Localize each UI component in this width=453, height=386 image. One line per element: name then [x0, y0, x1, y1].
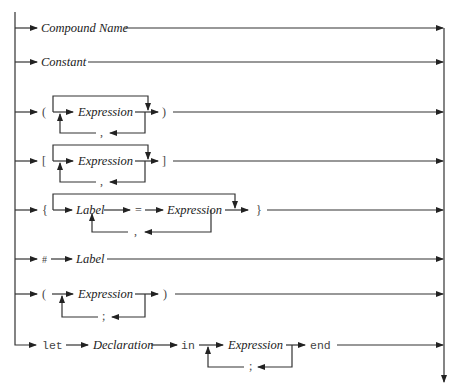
compound-name-label: Compound Name: [41, 21, 129, 35]
keyword-end: end: [310, 339, 331, 352]
row-list: [ Expression , ]: [15, 145, 443, 188]
rparen: ): [162, 105, 166, 119]
row-selector: # Label: [15, 252, 443, 266]
comma-separator: ,: [100, 125, 103, 139]
lbrace: {: [42, 203, 48, 217]
expression-label: Expression: [77, 287, 133, 301]
equals: =: [135, 203, 142, 217]
expression-label: Expression: [227, 338, 283, 352]
lparen: (: [42, 105, 46, 119]
row-record: { Label = Expression , }: [15, 194, 443, 238]
semicolon-separator: ;: [102, 309, 105, 323]
row-let: let Declaration in Expression ; end: [42, 338, 443, 373]
lbracket: [: [42, 154, 46, 168]
expression-label: Expression: [166, 203, 222, 217]
row-constant: Constant: [15, 55, 443, 69]
keyword-let: let: [42, 339, 63, 352]
rbracket: ]: [162, 154, 166, 168]
expression-label: Expression: [77, 105, 133, 119]
label-label: Label: [75, 252, 105, 266]
constant-label: Constant: [41, 55, 87, 69]
hash: #: [42, 254, 47, 265]
syntax-diagram: Compound Name Constant ( Expression , ) …: [0, 0, 453, 386]
lparen: (: [42, 287, 46, 301]
label-label: Label: [75, 203, 105, 217]
keyword-in: in: [181, 339, 195, 352]
row-compound-name: Compound Name: [15, 21, 443, 35]
rbrace: }: [256, 203, 262, 217]
row-tuple: ( Expression , ): [15, 96, 443, 139]
semicolon-separator: ;: [249, 359, 252, 373]
expression-label: Expression: [77, 154, 133, 168]
rparen: ): [163, 287, 167, 301]
declaration-label: Declaration: [92, 338, 153, 352]
comma-separator: ,: [134, 224, 137, 238]
comma-separator: ,: [100, 174, 103, 188]
row-sequence: ( Expression ; ): [15, 287, 443, 323]
